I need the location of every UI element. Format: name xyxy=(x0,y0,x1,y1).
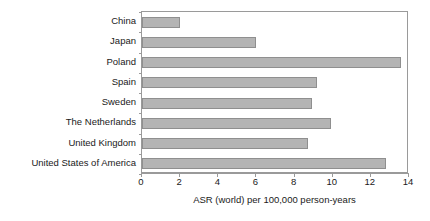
x-axis-tick-label: 4 xyxy=(202,176,232,187)
bar xyxy=(142,57,401,68)
bar xyxy=(142,158,386,169)
y-axis-category-label: China xyxy=(0,16,136,26)
y-axis-tick xyxy=(139,113,142,114)
x-axis-tick-label: 2 xyxy=(164,176,194,187)
x-axis-tick-label: 14 xyxy=(393,176,423,187)
y-axis-category-label: Japan xyxy=(0,36,136,46)
x-axis-tick-label: 12 xyxy=(355,176,385,187)
y-axis-tick xyxy=(139,73,142,74)
x-axis-tick-label: 8 xyxy=(279,176,309,187)
x-axis-tick-label: 0 xyxy=(126,176,156,187)
x-axis-line xyxy=(141,173,408,174)
x-axis-tick-label: 6 xyxy=(240,176,270,187)
y-axis-tick xyxy=(139,93,142,94)
x-axis-title: ASR (world) per 100,000 person-years xyxy=(141,194,408,206)
y-axis-tick xyxy=(139,32,142,33)
bar xyxy=(142,118,331,129)
y-axis-category-labels: ChinaJapanPolandSpainSwedenThe Netherlan… xyxy=(0,11,136,173)
plot-area xyxy=(141,11,408,173)
y-axis-category-label: Sweden xyxy=(0,97,136,107)
bar xyxy=(142,37,256,48)
bar xyxy=(142,77,317,88)
bar xyxy=(142,138,308,149)
y-axis-category-label: United States of America xyxy=(0,158,136,168)
y-axis-category-label: Poland xyxy=(0,57,136,67)
bar xyxy=(142,98,312,109)
x-axis-tick-label: 10 xyxy=(317,176,347,187)
y-axis-tick xyxy=(139,53,142,54)
y-axis-tick xyxy=(139,134,142,135)
y-axis-tick xyxy=(139,154,142,155)
bar xyxy=(142,17,180,28)
y-axis-tick xyxy=(139,12,142,13)
y-axis-category-label: United Kingdom xyxy=(0,138,136,148)
y-axis-category-label: The Netherlands xyxy=(0,117,136,127)
bar-chart-figure: ChinaJapanPolandSpainSwedenThe Netherlan… xyxy=(0,0,430,221)
y-axis-category-label: Spain xyxy=(0,77,136,87)
